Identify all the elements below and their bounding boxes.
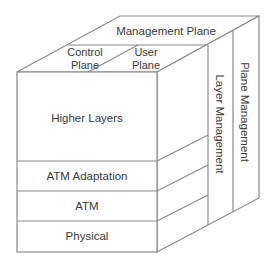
management-plane-label: Management Plane xyxy=(116,25,216,37)
user-plane-label-line1: User xyxy=(134,46,158,58)
atm-reference-model-cube: Management Plane Control Plane User Plan… xyxy=(0,0,273,270)
plane-management-label: Plane Management xyxy=(239,62,251,163)
atm-label: ATM xyxy=(75,200,98,212)
higher-layers-label: Higher Layers xyxy=(51,112,123,124)
user-plane-label-line2: Plane xyxy=(132,59,160,71)
layer-management-label: Layer Management xyxy=(214,74,226,174)
atm-adaptation-label: ATM Adaptation xyxy=(47,170,128,182)
control-plane-label-line1: Control xyxy=(67,46,102,58)
front-face xyxy=(17,72,157,252)
control-plane-label-line2: Plane xyxy=(71,59,99,71)
physical-label: Physical xyxy=(66,230,109,242)
